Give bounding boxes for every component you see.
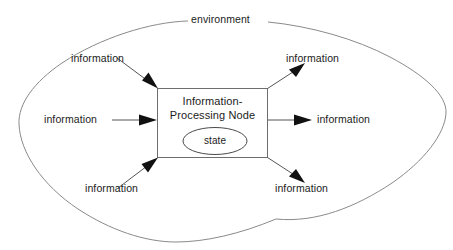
output-label-top-right: information xyxy=(286,52,339,64)
arrow-head-output-bottom-right xyxy=(289,169,305,183)
input-label-bottom-left: information xyxy=(85,182,138,194)
node-label-line2: Processing Node xyxy=(157,109,268,123)
output-label-bottom-right: information xyxy=(275,182,328,194)
input-label-top-left: information xyxy=(71,52,124,64)
arrow-head-input-bottom-left xyxy=(142,158,159,173)
flow-line-output-bottom-right xyxy=(268,158,297,177)
flow-line-output-top-right xyxy=(268,70,297,89)
node-label-line1: Information- xyxy=(157,95,268,109)
arrow-head-output-top-right xyxy=(289,63,305,77)
state-label: state xyxy=(183,135,247,147)
output-label-middle-right: information xyxy=(317,113,370,125)
arrow-head-output-middle-right xyxy=(294,115,312,126)
arrow-head-input-top-left xyxy=(142,73,158,89)
input-label-middle-left: information xyxy=(44,113,97,125)
environment-label: environment xyxy=(191,13,250,25)
diagram-canvas: environment Information- Processing Node… xyxy=(0,0,453,250)
arrow-head-input-middle-left xyxy=(139,115,157,126)
